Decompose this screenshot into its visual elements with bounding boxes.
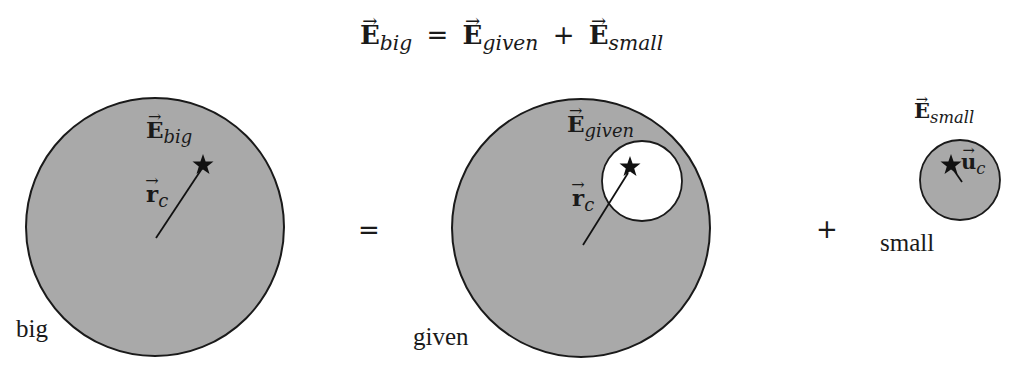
equation-term1-subscript: given bbox=[482, 31, 538, 55]
equation-term2-symbol: E bbox=[589, 22, 609, 48]
big-field-subscript: big bbox=[164, 126, 193, 147]
given-rc-label: rc bbox=[572, 186, 594, 210]
big-rc-label: rc bbox=[146, 182, 168, 206]
small-uc-symbol: u bbox=[961, 151, 976, 172]
equals-operator: = bbox=[358, 217, 380, 243]
equation-equals: = bbox=[427, 20, 449, 50]
small-label: small bbox=[880, 230, 934, 255]
plus-operator: + bbox=[816, 216, 838, 242]
big-rc-symbol: r bbox=[146, 182, 158, 205]
big-field-symbol: E bbox=[146, 118, 164, 141]
small-sphere bbox=[920, 140, 1000, 220]
big-rc-subscript: c bbox=[158, 190, 168, 211]
small-uc-subscript: c bbox=[976, 159, 985, 178]
equation-term1-symbol: E bbox=[463, 22, 483, 48]
given-sphere-body bbox=[452, 99, 710, 357]
given-rc-symbol: r bbox=[572, 186, 584, 209]
equation-plus: + bbox=[553, 20, 575, 50]
equation-lhs-subscript: big bbox=[380, 31, 412, 55]
given-label: given bbox=[413, 324, 469, 349]
equation-lhs-symbol: E bbox=[360, 22, 380, 48]
small-uc-label: uc bbox=[961, 151, 985, 173]
cavity-hole bbox=[602, 141, 682, 221]
given-field-symbol: E bbox=[567, 112, 585, 135]
superposition-equation: Ebig = Egiven + Esmall bbox=[360, 22, 663, 48]
given-rc-subscript: c bbox=[584, 194, 594, 215]
small-field-subscript: small bbox=[930, 108, 974, 127]
small-field-symbol: E bbox=[914, 100, 930, 121]
given-sphere bbox=[452, 99, 710, 357]
given-field-subscript: given bbox=[585, 120, 635, 141]
small-field-label: Esmall bbox=[914, 100, 974, 122]
big-label: big bbox=[16, 316, 48, 341]
given-field-label: Egiven bbox=[567, 112, 634, 136]
big-field-label: Ebig bbox=[146, 118, 192, 142]
equation-term2-subscript: small bbox=[609, 31, 664, 55]
